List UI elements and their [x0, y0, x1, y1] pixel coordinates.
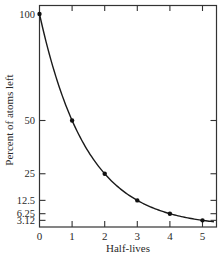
- x-tick-label: 5: [200, 230, 206, 242]
- x-axis-label: Half-lives: [106, 242, 150, 254]
- tick-labels: 012345100502512.56.253.12: [17, 9, 206, 243]
- data-point: [135, 198, 139, 202]
- x-tick-label: 0: [37, 230, 43, 242]
- y-tick-label: 100: [19, 9, 35, 20]
- x-tick-label: 1: [69, 230, 75, 242]
- decay-curve: [40, 14, 214, 222]
- y-tick-label: 50: [25, 115, 36, 126]
- decay-chart: 012345100502512.56.253.12 Half-lives Per…: [0, 0, 223, 257]
- data-point: [37, 12, 41, 16]
- y-tick-label: 3.12: [17, 215, 35, 226]
- data-markers: [37, 12, 204, 223]
- x-tick-label: 4: [167, 230, 173, 242]
- y-tick-label: 12.5: [17, 195, 35, 206]
- data-point: [103, 172, 107, 176]
- data-point: [200, 218, 204, 222]
- y-axis-label: Percent of atoms left: [3, 74, 15, 165]
- data-point: [168, 211, 172, 215]
- x-tick-label: 2: [102, 230, 108, 242]
- data-point: [70, 118, 74, 122]
- x-tick-label: 3: [135, 230, 141, 242]
- y-tick-label: 25: [25, 168, 36, 179]
